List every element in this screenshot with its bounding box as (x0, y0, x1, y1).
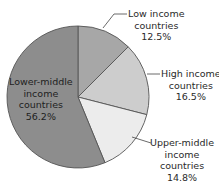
label-low-income: Low income countries 12.5% (128, 8, 185, 43)
label-high-income: High income countries 16.5% (161, 68, 219, 103)
label-line: High income (161, 68, 219, 80)
label-value: 12.5% (128, 31, 185, 43)
leader-line-low-income (103, 14, 127, 28)
label-lower-middle-income: Lower-middle income countries 56.2% (9, 76, 73, 122)
label-line: income (150, 149, 214, 161)
label-upper-middle-income: Upper-middle income countries 14.8% (150, 137, 214, 183)
label-line: countries (128, 20, 185, 32)
label-line: countries (9, 99, 73, 111)
label-value: 16.5% (161, 91, 219, 103)
label-line: countries (150, 160, 214, 172)
label-line: countries (161, 80, 219, 92)
label-line: Low income (128, 8, 185, 20)
label-line: Lower-middle (9, 76, 73, 88)
label-line: Upper-middle (150, 137, 214, 149)
label-line: income (9, 88, 73, 100)
label-value: 56.2% (9, 111, 73, 123)
label-value: 14.8% (150, 172, 214, 184)
